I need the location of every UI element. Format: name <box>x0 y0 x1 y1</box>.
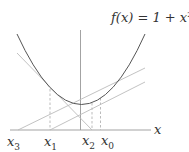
point-label-x1: x1 <box>44 135 57 152</box>
point-label-x0: x0 <box>101 134 114 151</box>
tangent-at-x2 <box>18 68 145 130</box>
parabola-curve <box>17 34 145 105</box>
function-label: f(x) = 1 + x2 <box>111 11 189 24</box>
function-text: f(x) = 1 + x <box>111 10 187 25</box>
point-label-x2: x2 <box>82 134 95 151</box>
function-exponent: 2 <box>187 10 189 19</box>
tangent-at-x0 <box>50 82 145 130</box>
axis-label-x: x <box>154 123 161 136</box>
point-label-x3: x3 <box>7 135 20 152</box>
